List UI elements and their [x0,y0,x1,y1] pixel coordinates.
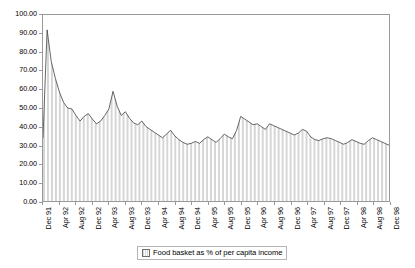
x-tick-mark [291,202,292,205]
x-tick-label: Dec 95 [244,207,251,229]
x-tick-mark [373,202,374,205]
x-tick-mark [208,202,209,205]
y-tick-label: 70.00 [19,67,37,74]
area-fill [43,30,389,201]
x-tick-label: Dec 97 [343,207,350,229]
y-tick-label: 50.00 [19,104,37,111]
x-tick-mark [241,202,242,205]
x-tick-label: Aug 93 [128,207,135,229]
x-tick-label: Apr 96 [260,207,267,228]
x-tick-label: Aug 97 [327,207,334,229]
x-tick-mark [108,202,109,205]
x-tick-label: Dec 91 [45,207,52,229]
x-tick-mark [141,202,142,205]
x-tick-label: Dec 92 [95,207,102,229]
x-tick-mark [224,202,225,205]
y-tick-label: 100.00 [15,10,37,17]
x-tick-label: Apr 98 [360,207,367,228]
x-tick-mark [42,202,43,205]
x-tick-mark [357,202,358,205]
x-tick-mark [125,202,126,205]
y-tick-label: 30.00 [19,142,37,149]
x-tick-mark [274,202,275,205]
chart-legend: Food basket as % of per capita income [137,246,287,260]
x-tick-label: Apr 97 [310,207,317,228]
y-tick-label: 60.00 [19,86,37,93]
x-tick-mark [75,202,76,205]
y-axis: 100.0090.0080.0070.0060.0050.0040.0030.0… [0,0,42,210]
x-tick-mark [158,202,159,205]
y-tick-label: 40.00 [19,123,37,130]
x-tick-label: Apr 95 [211,207,218,228]
x-tick-label: Aug 94 [178,207,185,229]
y-tick-label: 20.00 [19,161,37,168]
x-tick-mark [307,202,308,205]
y-tick-label: 80.00 [19,48,37,55]
x-tick-label: Apr 92 [62,207,69,228]
x-tick-label: Aug 98 [376,207,383,229]
x-tick-label: Dec 94 [194,207,201,229]
x-tick-mark [59,202,60,205]
series-swatch-icon [142,249,150,257]
x-tick-label: Aug 96 [277,207,284,229]
plot-area [42,14,390,202]
x-tick-label: Dec 96 [294,207,301,229]
x-tick-label: Apr 93 [111,207,118,228]
x-tick-mark [175,202,176,205]
chart-container: 100.0090.0080.0070.0060.0050.0040.0030.0… [0,0,415,268]
x-tick-label: Aug 92 [78,207,85,229]
x-tick-mark [257,202,258,205]
x-tick-mark [390,202,391,205]
x-tick-mark [92,202,93,205]
x-tick-label: Dec 98 [393,207,400,229]
area-series-svg [43,15,389,201]
x-tick-mark [340,202,341,205]
x-tick-mark [191,202,192,205]
y-tick-label: 0.00 [23,198,37,205]
x-tick-label: Dec 93 [144,207,151,229]
x-tick-label: Aug 95 [227,207,234,229]
y-tick-label: 90.00 [19,29,37,36]
x-tick-label: Apr 94 [161,207,168,228]
y-tick-label: 10.00 [19,180,37,187]
legend-label: Food basket as % of per capita income [153,249,282,257]
x-tick-mark [324,202,325,205]
